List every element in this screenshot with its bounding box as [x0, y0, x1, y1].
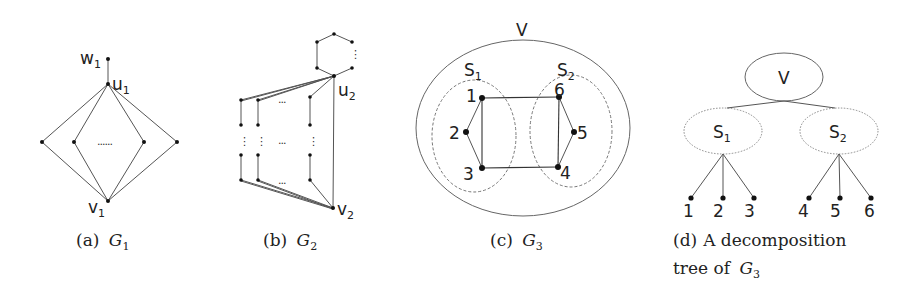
node-w1	[106, 57, 110, 61]
edge-2-3	[466, 132, 482, 168]
node	[72, 140, 76, 144]
edge	[74, 84, 108, 142]
node	[239, 178, 243, 182]
caption-c: (c) G3	[490, 230, 543, 253]
edge	[74, 142, 108, 201]
tree-edge	[839, 154, 871, 198]
caption-b: (b) G2	[263, 230, 317, 253]
node	[308, 123, 312, 127]
leaf-node-2	[720, 195, 725, 200]
node	[142, 140, 146, 144]
edge-6-5	[559, 97, 574, 132]
node	[256, 98, 260, 102]
label-s1: S1	[464, 60, 482, 83]
node-v2	[331, 206, 335, 210]
edge-u2-v2	[333, 76, 334, 208]
h-ellipsis: ...	[278, 93, 286, 106]
edge-1-6	[482, 97, 559, 98]
tree-edge-v-s2	[784, 101, 835, 108]
edge	[317, 68, 334, 76]
edge-5-4	[558, 132, 574, 167]
label-node-1: 1	[466, 86, 477, 106]
node	[239, 123, 243, 127]
leaf-label-4: 4	[798, 201, 809, 221]
caption-a: (a) G1	[76, 230, 129, 253]
label-node-4: 4	[560, 163, 571, 183]
node	[256, 123, 260, 127]
node	[315, 66, 319, 70]
subfigure-a-graph-g1: ...... w1 u1 v1 (a) G1	[40, 48, 179, 253]
vertical-ellipsis: ⋮	[350, 48, 360, 61]
label-v: V	[516, 20, 528, 40]
leaf-label-1: 1	[683, 201, 694, 221]
edge-6-4	[558, 97, 559, 167]
edge	[334, 68, 352, 76]
edge	[108, 142, 177, 201]
node	[40, 140, 44, 144]
v-ellipsis: ⋮	[256, 135, 266, 148]
node-u1	[106, 82, 110, 86]
h-ellipsis: ...	[278, 174, 286, 187]
label-node-5: 5	[577, 123, 588, 143]
v-ellipsis: ⋮	[239, 135, 249, 148]
subfigure-b-graph-g2: ⋮	[239, 32, 360, 253]
leaf-node-1	[688, 195, 693, 200]
h-ellipsis: ...	[278, 134, 286, 147]
leaf-node-3	[751, 195, 756, 200]
node-3	[479, 165, 485, 171]
node	[308, 178, 312, 182]
node-v1	[106, 199, 110, 203]
node	[256, 153, 260, 157]
caption-d-line2: tree of G3	[673, 258, 760, 281]
edge-3-4	[482, 167, 558, 168]
edge	[241, 181, 333, 209]
node	[315, 40, 319, 44]
caption-d-line1: (d)A decomposition	[673, 230, 846, 250]
label-v2: v2	[337, 199, 354, 222]
tree-label-v: V	[778, 68, 790, 88]
leaf-node-5	[837, 195, 842, 200]
node	[175, 140, 179, 144]
label-u1: u1	[112, 74, 130, 97]
edge	[317, 34, 334, 42]
subfigure-c-graph-g3: V S1 S2 1 2 3 6 5 4 (c) G3	[416, 20, 630, 253]
node	[332, 32, 336, 36]
leaf-label-3: 3	[744, 201, 755, 221]
leaf-node-4	[806, 195, 811, 200]
tree-edge	[691, 154, 723, 198]
leaf-label-5: 5	[830, 201, 841, 221]
edge	[258, 76, 334, 101]
label-u2: u2	[338, 80, 356, 103]
node	[308, 95, 312, 99]
ellipsis: ......	[97, 135, 112, 148]
leaf-label-6: 6	[864, 201, 875, 221]
set-s2-ellipse	[530, 75, 612, 187]
node	[350, 40, 354, 44]
node	[239, 98, 243, 102]
leaf-node-6	[868, 195, 873, 200]
leaf-label-2: 2	[713, 201, 724, 221]
edge	[42, 84, 108, 142]
node	[308, 153, 312, 157]
node	[350, 66, 354, 70]
label-v1: v1	[88, 197, 105, 220]
node-2	[463, 129, 469, 135]
label-node-2: 2	[449, 123, 460, 143]
v-ellipsis: ⋮	[308, 135, 318, 148]
label-w1: w1	[80, 48, 101, 71]
tree-label-s1: S1	[713, 122, 731, 145]
node-u2	[332, 74, 336, 78]
node	[256, 178, 260, 182]
tree-label-s2: S2	[829, 122, 847, 145]
node-1	[479, 95, 485, 101]
tree-edge-v-s1	[727, 101, 784, 108]
edge	[334, 34, 352, 42]
tree-edge	[839, 154, 840, 198]
tree-edge	[809, 154, 839, 198]
subfigure-d-decomposition-tree: V S1 S2 1 2 3 4 5 6 (d)A decomposition t…	[673, 53, 878, 281]
node	[239, 153, 243, 157]
edge	[42, 142, 108, 201]
label-node-6: 6	[554, 80, 565, 100]
tree-edge	[723, 154, 754, 198]
label-node-3: 3	[463, 164, 474, 184]
